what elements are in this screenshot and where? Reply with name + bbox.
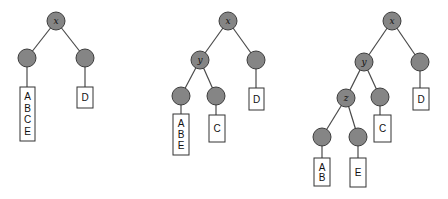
tree-diagram-canvas: xABCEDxyABECDxyzABECD — [0, 0, 448, 199]
node-circle-icon — [349, 128, 367, 146]
node-circle-icon — [207, 87, 225, 105]
node-circle-icon — [371, 88, 389, 106]
tree-node: x — [383, 12, 401, 30]
leaf-item-label: C — [24, 114, 31, 125]
tree-node — [313, 128, 331, 146]
tree-1: xABCED — [18, 12, 94, 141]
leaf-box: D — [77, 87, 93, 108]
leaf-box: C — [374, 115, 391, 142]
leaf-box: ABCE — [20, 87, 35, 141]
node-circle-icon — [172, 87, 190, 105]
leaf-item-label: A — [24, 91, 31, 102]
leaf-item-label: E — [178, 140, 185, 151]
leaf-box: D — [249, 88, 264, 110]
leaf-item-label: E — [24, 126, 31, 137]
leaf-item-label: B — [178, 129, 185, 140]
node-label: y — [196, 55, 203, 65]
node-circle-icon — [76, 49, 94, 67]
tree-3: xyzABECD — [313, 12, 429, 187]
leaf-item-label: E — [355, 167, 362, 178]
leaf-box: ABE — [173, 114, 189, 155]
node-label: x — [225, 16, 230, 26]
tree-node: z — [337, 89, 355, 107]
tree-node — [349, 128, 367, 146]
tree-node — [411, 53, 429, 71]
tree-node — [247, 51, 265, 69]
node-circle-icon — [18, 49, 36, 67]
node-label: y — [360, 57, 367, 67]
tree-node — [76, 49, 94, 67]
tree-node — [18, 49, 36, 67]
leaf-box: D — [413, 88, 429, 110]
leaf-box: AB — [314, 158, 330, 186]
tree-node — [371, 88, 389, 106]
leaf-item-label: A — [178, 118, 185, 129]
leaf-item-label: D — [417, 94, 424, 105]
leaf-box: C — [209, 115, 225, 142]
leaf-item-label: B — [319, 172, 326, 183]
leaf-item-label: D — [253, 94, 260, 105]
leaf-item-label: C — [379, 123, 386, 134]
tree-node: x — [219, 12, 237, 30]
node-label: z — [343, 93, 349, 103]
tree-diagram: xABCEDxyABECDxyzABECD — [0, 0, 448, 199]
tree-node: y — [191, 51, 209, 69]
node-circle-icon — [313, 128, 331, 146]
leaf-item-label: D — [81, 92, 88, 103]
node-label: x — [53, 16, 58, 26]
leaf-box: E — [350, 158, 366, 187]
tree-node — [207, 87, 225, 105]
leaf-item-label: B — [24, 103, 31, 114]
node-circle-icon — [247, 51, 265, 69]
tree-node — [172, 87, 190, 105]
leaf-item-label: C — [213, 123, 220, 134]
tree-2: xyABECD — [172, 12, 265, 155]
node-circle-icon — [411, 53, 429, 71]
tree-node: y — [355, 53, 373, 71]
node-label: x — [389, 16, 394, 26]
tree-node: x — [47, 12, 65, 30]
